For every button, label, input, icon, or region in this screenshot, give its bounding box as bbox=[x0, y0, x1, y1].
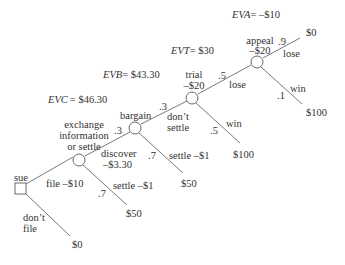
branch-label-file: file –$10 bbox=[46, 178, 84, 189]
branch-label-discover-2: –$3.30 bbox=[102, 159, 132, 170]
prob-dont-settle: .3 bbox=[159, 101, 167, 112]
payoff-exchange-settle: $50 bbox=[126, 208, 142, 219]
node-label-trial: trial bbox=[186, 69, 203, 80]
prob-bargain-settle: .7 bbox=[148, 150, 156, 161]
decision-node-sue bbox=[15, 183, 26, 194]
payoff-appeal-win: $100 bbox=[306, 107, 327, 118]
branch-label-dont-settle-2: settle bbox=[167, 122, 189, 133]
branch-label-dont-file-1: don’t bbox=[23, 212, 45, 223]
node-label-exchange-1: exchange bbox=[64, 119, 104, 130]
ev-label-c: EVC= $46.30 bbox=[47, 94, 107, 105]
payoff-dont-file: $0 bbox=[72, 239, 83, 250]
node-label-appeal-cost: –$20 bbox=[249, 45, 271, 56]
payoff-appeal-lose: $0 bbox=[306, 27, 317, 38]
prob-trial-win: .5 bbox=[210, 125, 218, 136]
node-label-trial-cost: –$20 bbox=[183, 80, 205, 91]
prob-appeal-win: .1 bbox=[277, 90, 285, 101]
prob-discover: .3 bbox=[114, 125, 122, 136]
prob-exchange-settle: .7 bbox=[98, 188, 106, 199]
node-label-sue: sue bbox=[14, 172, 28, 183]
chance-node-exchange bbox=[73, 154, 85, 166]
branch-label-appeal-lose: lose bbox=[283, 48, 300, 59]
prob-appeal-lose: .9 bbox=[278, 36, 286, 47]
branch-label-dont-settle-1: don’t bbox=[167, 111, 189, 122]
branch-label-discover-1: discover bbox=[101, 148, 137, 159]
ev-label-a: EVA= –$10 bbox=[231, 9, 280, 20]
chance-node-appeal bbox=[251, 56, 263, 68]
branch-label-bargain-settle: settle –$1 bbox=[169, 150, 210, 161]
node-label-exchange-2: information bbox=[59, 130, 109, 141]
ev-label-t: EVT= $30 bbox=[170, 45, 214, 56]
chance-node-bargain bbox=[129, 122, 141, 134]
branch-label-dont-file-2: file bbox=[23, 223, 37, 234]
ev-label-b: EVB= $43.30 bbox=[102, 69, 160, 80]
branch-label-trial-win: win bbox=[226, 118, 243, 129]
branch-label-exchange-settle: settle –$1 bbox=[113, 180, 154, 191]
prob-trial-lose: .5 bbox=[218, 70, 226, 81]
decision-tree-diagram: EVC= $46.30 EVB= $43.30 EVT= $30 EVA= –$… bbox=[0, 0, 345, 265]
branch-label-appeal-win: win bbox=[290, 83, 307, 94]
node-label-bargain: bargain bbox=[120, 110, 152, 121]
chance-node-trial bbox=[186, 92, 198, 104]
node-label-exchange-3: or settle bbox=[67, 141, 101, 152]
payoff-bargain-settle: $50 bbox=[181, 178, 197, 189]
payoff-trial-win: $100 bbox=[233, 149, 254, 160]
branch-label-trial-lose: lose bbox=[229, 79, 246, 90]
